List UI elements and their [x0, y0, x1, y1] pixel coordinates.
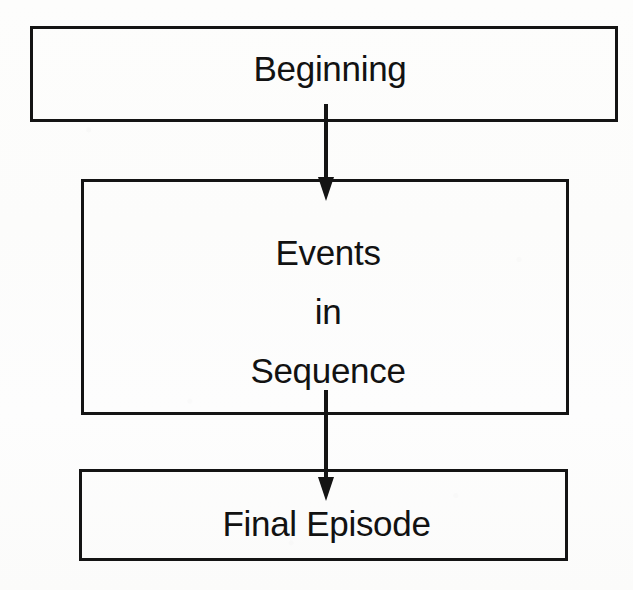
diagram-canvas: Beginning Events in Sequence Final Episo…: [0, 0, 633, 590]
flow-node-final-episode-label: Final Episode: [222, 506, 430, 541]
flow-node-events-in-sequence: Events in Sequence: [81, 179, 569, 415]
flow-node-beginning-label: Beginning: [254, 51, 407, 86]
flow-node-events-label-stack: Events in Sequence: [250, 235, 405, 388]
flow-node-events-label-line3: Sequence: [250, 353, 405, 388]
flow-node-events-label-line1: Events: [275, 235, 380, 270]
flow-node-final-episode: Final Episode: [79, 469, 568, 561]
flow-node-events-label-line2: in: [315, 294, 342, 329]
